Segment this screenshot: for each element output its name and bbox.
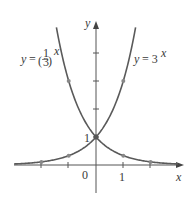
svg-text:y: y (133, 52, 140, 66)
x-axis-arrow-icon (176, 162, 184, 168)
x-axis-label: x (175, 170, 182, 184)
y-axis-arrow-icon (93, 21, 99, 29)
curve-one-third-power-x (56, 27, 177, 164)
svg-text:(: ( (38, 54, 42, 68)
x-tick-label-1: 1 (119, 170, 125, 184)
data-point (39, 160, 43, 164)
x-tick-label-0: 0 (82, 168, 88, 182)
data-point (121, 154, 125, 158)
data-point (67, 154, 71, 158)
svg-text:x: x (53, 44, 60, 58)
svg-text:): ) (48, 54, 52, 68)
y-axis-label: y (84, 16, 91, 30)
exponential-graph: y x 0 1 1 y = 3 x y = ( 1 3 ) x (0, 0, 192, 201)
svg-text:y: y (20, 52, 27, 66)
svg-text:= 3: = 3 (142, 52, 158, 66)
data-point (121, 79, 125, 83)
curve-3-power-x (14, 27, 135, 164)
data-point (94, 135, 99, 140)
legend-label-one-third-x: y = ( 1 3 ) x (20, 44, 60, 69)
data-point (149, 160, 153, 164)
y-tick-label-1: 1 (84, 131, 90, 145)
svg-text:=: = (29, 52, 36, 66)
legend-label-3x: y = 3 x (133, 46, 167, 66)
data-point (67, 79, 71, 83)
svg-text:x: x (160, 46, 167, 60)
